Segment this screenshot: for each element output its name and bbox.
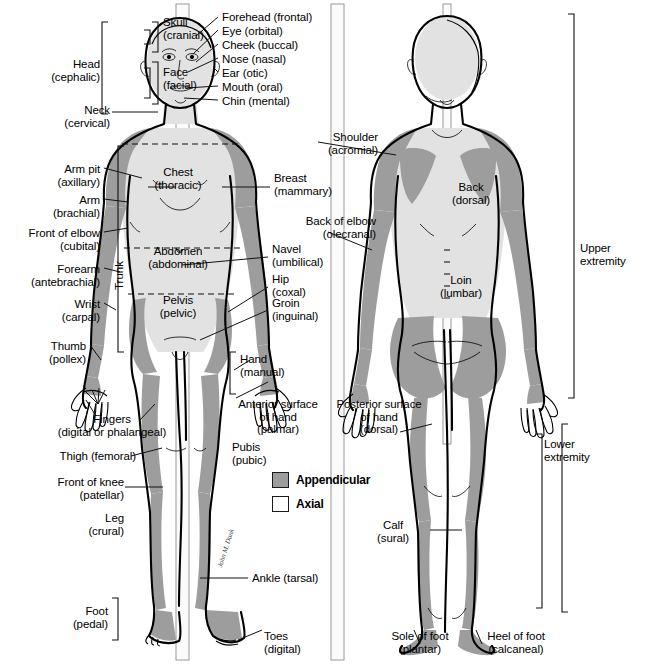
label-eye: Eye (orbital) bbox=[222, 25, 283, 38]
label-cheek: Cheek (buccal) bbox=[222, 39, 298, 52]
label-navel: Navel (umbilical) bbox=[272, 243, 323, 268]
label-foot: Foot (pedal) bbox=[20, 605, 108, 630]
label-hip: Hip (coxal) bbox=[272, 273, 306, 298]
label-pelvis: Pelvis (pelvic) bbox=[142, 294, 214, 319]
legend-swatch-appendicular bbox=[272, 472, 289, 488]
label-arm: Arm (brachial) bbox=[2, 194, 100, 219]
label-hand: Hand (manual) bbox=[240, 353, 285, 378]
label-upper-extremity: Upper extremity bbox=[580, 242, 626, 267]
anterior-figure-art bbox=[0, 0, 647, 668]
label-forearm: Forearm (antebrachial) bbox=[0, 263, 100, 288]
label-leg: Leg (crural) bbox=[40, 512, 124, 537]
label-calf: Calf (sural) bbox=[358, 519, 428, 544]
label-abdomen: Abdomen (abdominal) bbox=[130, 245, 226, 270]
label-pubis: Pubis (pubic) bbox=[232, 441, 266, 466]
label-shoulder: Shoulder (acromial) bbox=[300, 131, 378, 156]
label-thumb: Thumb (pollex) bbox=[2, 340, 86, 365]
label-thigh: Thigh (femoral) bbox=[20, 450, 136, 463]
label-ankle: Ankle (tarsal) bbox=[252, 572, 318, 585]
label-toes: Toes (digital) bbox=[264, 630, 301, 655]
legend-label-appendicular: Appendicular bbox=[296, 473, 370, 487]
label-chin: Chin (mental) bbox=[222, 95, 290, 108]
label-lower-extremity: Lower extremity bbox=[544, 438, 590, 463]
label-back-of-elbow: Back of elbow (olecranal) bbox=[280, 215, 376, 240]
label-trunk: Trunk bbox=[113, 261, 125, 290]
label-back: Back (dorsal) bbox=[440, 181, 502, 206]
label-sole-of-foot: Sole of foot (plantar) bbox=[372, 630, 468, 655]
label-loin: Loin (lumbar) bbox=[430, 274, 492, 299]
label-groin: Groin (inguinal) bbox=[272, 297, 318, 322]
label-neck: Neck (cervical) bbox=[4, 104, 110, 129]
reference-column-right bbox=[331, 4, 344, 660]
label-heel-of-foot: Heel of foot (calcaneal) bbox=[466, 630, 566, 655]
label-front-of-elbow: Front of elbow (cubital) bbox=[0, 227, 100, 252]
legend-item-appendicular: Appendicular bbox=[272, 472, 370, 488]
label-front-of-knee: Front of knee (patellar) bbox=[20, 476, 124, 501]
label-chest: Chest (thoracic) bbox=[140, 166, 216, 191]
label-forehead: Forehead (frontal) bbox=[222, 11, 312, 24]
anatomy-diagram: Head (cephalic) Skull (cranial) Face (fa… bbox=[0, 0, 647, 668]
legend-swatch-axial bbox=[272, 496, 289, 512]
legend-label-axial: Axial bbox=[296, 497, 324, 511]
label-wrist: Wrist (carpal) bbox=[2, 298, 100, 323]
label-arm-pit: Arm pit (axillary) bbox=[2, 163, 100, 188]
label-posterior-surface-of-hand: Posterior surface of hand (dorsal) bbox=[318, 398, 440, 436]
label-mouth: Mouth (oral) bbox=[222, 81, 283, 94]
legend-item-axial: Axial bbox=[272, 496, 324, 512]
label-fingers: Fingers (digital or phalangeal) bbox=[28, 413, 196, 438]
label-nose: Nose (nasal) bbox=[222, 53, 286, 66]
label-ear: Ear (otic) bbox=[222, 67, 268, 80]
label-breast: Breast (mammary) bbox=[274, 172, 332, 197]
label-head: Head (cephalic) bbox=[4, 58, 100, 83]
